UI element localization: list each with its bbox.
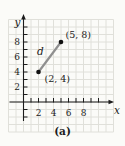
point-label: (2, 4) bbox=[45, 73, 71, 84]
distance-label: d bbox=[37, 45, 44, 57]
x-tick-label: 2 bbox=[36, 108, 42, 118]
y-tick-label: 4 bbox=[14, 67, 20, 77]
y-axis-arrow bbox=[21, 14, 26, 20]
point-label: (5, 8) bbox=[66, 29, 92, 40]
data-point bbox=[36, 70, 41, 75]
plotted-data: d(2, 4)(5, 8) bbox=[36, 29, 91, 84]
coordinate-plane-figure: 24682468 y x d(2, 4)(5, 8) (a) bbox=[0, 0, 125, 146]
figure-caption: (a) bbox=[0, 125, 125, 137]
x-tick-label: 6 bbox=[66, 108, 72, 118]
x-axis-label: x bbox=[114, 104, 120, 116]
y-tick-label: 2 bbox=[14, 82, 20, 92]
y-axis-label: y bbox=[14, 16, 22, 28]
x-tick-label: 4 bbox=[51, 108, 57, 118]
y-tick-label: 6 bbox=[14, 52, 20, 62]
data-point bbox=[59, 40, 64, 45]
x-tick-label: 8 bbox=[81, 108, 87, 118]
y-tick-label: 8 bbox=[14, 37, 20, 47]
